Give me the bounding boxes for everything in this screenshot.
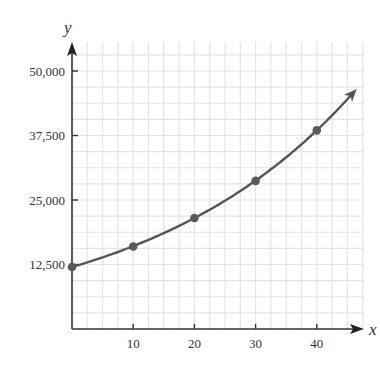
- y-tick-label: 50,000: [29, 64, 65, 79]
- x-tick-label: 20: [188, 336, 201, 351]
- exponential-growth-chart: x y 10203040 12,50025,00037,50050,000: [0, 0, 380, 365]
- axes: x y: [62, 18, 377, 339]
- x-axis-label: x: [368, 320, 377, 339]
- y-tick-label: 12,500: [29, 257, 65, 272]
- data-point: [68, 263, 77, 272]
- y-ticks: 12,50025,00037,50050,000: [29, 64, 78, 273]
- y-tick-label: 37,500: [29, 128, 65, 143]
- x-tick-label: 10: [127, 336, 140, 351]
- data-series: [68, 89, 357, 271]
- grid: [72, 42, 364, 329]
- data-point: [251, 177, 260, 186]
- x-tick-label: 40: [310, 336, 323, 351]
- data-point: [190, 214, 199, 223]
- x-tick-label: 30: [249, 336, 262, 351]
- y-tick-label: 25,000: [29, 193, 65, 208]
- data-point: [313, 126, 322, 135]
- data-point: [129, 242, 138, 251]
- y-axis-label: y: [62, 18, 72, 37]
